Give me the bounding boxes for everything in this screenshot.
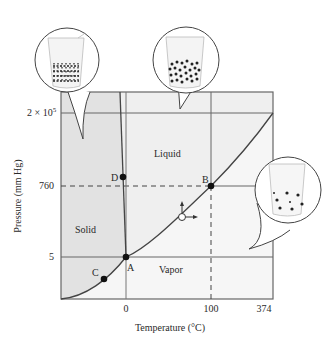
phase-diagram: A B C D Solid Liquid Vapor 5 760 2 × 105…: [0, 0, 336, 347]
point-d: [120, 174, 127, 181]
point-c: [101, 276, 108, 283]
xtick-0: 0: [124, 303, 129, 314]
solid-label: Solid: [75, 224, 96, 235]
vapor-label: Vapor: [159, 264, 184, 275]
liquid-label: Liquid: [154, 148, 181, 159]
point-a-label: A: [127, 262, 135, 273]
point-d-label: D: [111, 172, 118, 183]
point-b: [208, 183, 215, 190]
xtick-374: 374: [257, 303, 272, 314]
y-axis-label: Pressure (mm Hg): [12, 159, 24, 232]
ytick-760: 760: [39, 180, 54, 191]
ytick-2e5: 2 × 105: [27, 106, 57, 118]
point-a: [123, 254, 130, 261]
point-c-label: C: [92, 267, 99, 278]
x-axis-label: Temperature (°C): [135, 322, 205, 334]
ytick-5: 5: [49, 251, 54, 262]
beaker-icon: [269, 164, 305, 216]
point-b-label: B: [202, 174, 209, 185]
xtick-100: 100: [204, 303, 219, 314]
